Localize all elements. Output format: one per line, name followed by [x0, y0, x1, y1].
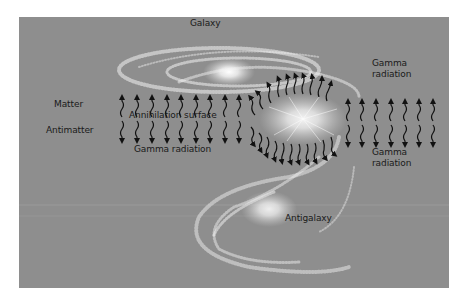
gamma-radiation-bottom-right-label-2: radiation [372, 158, 411, 169]
galaxy-label: Galaxy [190, 18, 221, 29]
gamma-radiation-bottom-right-label-1: Gamma [372, 147, 407, 158]
antigalaxy-label: Antigalaxy [285, 213, 332, 224]
matter-label: Matter [54, 99, 83, 110]
annihilation-surface-label: Annihilation surface [129, 110, 217, 121]
gamma-radiation-top-right-label-2: radiation [372, 69, 411, 80]
diagram-panel: Galaxy Gamma radiation Matter Annihilati… [19, 17, 449, 288]
gamma-radiation-bottom-label: Gamma radiation [134, 144, 211, 155]
antimatter-label: Antimatter [46, 125, 93, 136]
gamma-radiation-top-right-label-1: Gamma [372, 58, 407, 69]
